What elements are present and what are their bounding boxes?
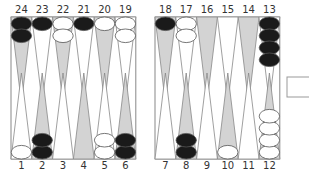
checker-black-point-21[interactable]: [74, 17, 94, 31]
checker-white-point-5[interactable]: [94, 145, 114, 159]
point-label-7: 7: [162, 160, 168, 171]
checker-white-point-12[interactable]: [259, 133, 279, 147]
point-label-21: 21: [77, 4, 90, 15]
point-label-22: 22: [57, 4, 70, 15]
checker-black-point-23[interactable]: [32, 17, 52, 31]
point-label-9: 9: [204, 160, 210, 171]
point-label-12: 12: [263, 160, 276, 171]
point-label-11: 11: [242, 160, 255, 171]
checker-black-point-13[interactable]: [259, 29, 279, 43]
checker-black-point-24[interactable]: [11, 29, 31, 43]
doubling-cube[interactable]: [287, 77, 309, 97]
point-label-24: 24: [15, 4, 28, 15]
checker-white-point-1[interactable]: [11, 145, 31, 159]
point-label-23: 23: [36, 4, 49, 15]
checker-white-point-19[interactable]: [115, 17, 135, 31]
checker-black-point-18[interactable]: [155, 17, 175, 31]
point-label-5: 5: [101, 160, 107, 171]
checker-white-point-22[interactable]: [53, 29, 73, 43]
checker-black-point-13[interactable]: [259, 41, 279, 55]
point-label-17: 17: [180, 4, 193, 15]
point-label-1: 1: [18, 160, 24, 171]
point-label-15: 15: [221, 4, 234, 15]
point-label-3: 3: [60, 160, 66, 171]
point-label-16: 16: [201, 4, 214, 15]
point-label-19: 19: [119, 4, 132, 15]
checker-black-point-8[interactable]: [176, 133, 196, 147]
point-label-14: 14: [242, 4, 255, 15]
checker-white-point-22[interactable]: [53, 17, 73, 31]
cube-box[interactable]: [287, 77, 309, 97]
point-label-6: 6: [122, 160, 128, 171]
checker-black-point-13[interactable]: [259, 17, 279, 31]
checker-black-point-24[interactable]: [11, 17, 31, 31]
checker-black-point-13[interactable]: [259, 53, 279, 67]
checker-white-point-12[interactable]: [259, 145, 279, 159]
checker-white-point-5[interactable]: [94, 133, 114, 147]
checker-black-point-2[interactable]: [32, 145, 52, 159]
backgammon-board: 242322212019181716151413123456789101112: [0, 0, 309, 182]
checker-white-point-17[interactable]: [176, 17, 196, 31]
checker-black-point-2[interactable]: [32, 133, 52, 147]
checker-white-point-19[interactable]: [115, 29, 135, 43]
checker-white-point-17[interactable]: [176, 29, 196, 43]
point-label-8: 8: [183, 160, 189, 171]
checker-white-point-12[interactable]: [259, 109, 279, 123]
point-label-2: 2: [39, 160, 45, 171]
point-label-10: 10: [221, 160, 234, 171]
checker-black-point-6[interactable]: [115, 145, 135, 159]
checker-white-point-10[interactable]: [218, 145, 238, 159]
point-label-18: 18: [159, 4, 172, 15]
checker-white-point-12[interactable]: [259, 121, 279, 135]
checker-black-point-8[interactable]: [176, 145, 196, 159]
point-label-13: 13: [263, 4, 276, 15]
checker-black-point-6[interactable]: [115, 133, 135, 147]
point-label-20: 20: [98, 4, 111, 15]
checker-white-point-20[interactable]: [94, 17, 114, 31]
point-label-4: 4: [81, 160, 87, 171]
